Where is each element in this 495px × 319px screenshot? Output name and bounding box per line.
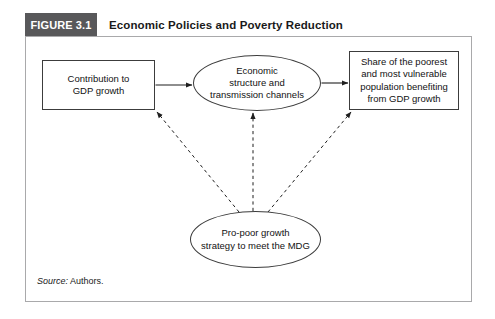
node-pro-poor-growth-strategy: Pro-poor growth strategy to meet the MDG — [190, 211, 321, 268]
node-share-of-poorest-population: Share of the poorest and most vulnerable… — [349, 51, 459, 110]
node-share-line-1: Share of the poorest — [361, 56, 447, 67]
figure-title: Economic Policies and Poverty Reduction — [109, 13, 343, 36]
node-share-line-3: population benefiting — [360, 81, 448, 92]
node-share-line-2: and most vulnerable — [361, 68, 447, 79]
node-structure-line-2: structure and — [229, 77, 284, 88]
node-share-line-4: from GDP growth — [367, 93, 440, 104]
node-structure-line-3: transmission channels — [210, 89, 304, 100]
node-contribution-text: Contribution to GDP growth — [43, 73, 154, 97]
node-contribution-to-gdp-growth: Contribution to GDP growth — [42, 60, 155, 110]
node-propoor-text: Pro-poor growth strategy to meet the MDG — [191, 227, 320, 251]
node-structure-line-1: Economic — [236, 65, 278, 76]
node-contribution-line-1: Contribution to — [68, 73, 130, 84]
figure-container: FIGURE 3.1 Economic Policies and Poverty… — [0, 0, 495, 319]
source-label: Source: — [37, 276, 68, 286]
source-note: Source: Authors. — [37, 276, 104, 286]
source-value: Authors. — [68, 276, 104, 286]
node-share-text: Share of the poorest and most vulnerable… — [355, 56, 453, 105]
node-propoor-line-2: strategy to meet the MDG — [201, 240, 310, 251]
node-economic-structure: Economic structure and transmission chan… — [193, 55, 321, 111]
figure-header: FIGURE 3.1 Economic Policies and Poverty… — [25, 13, 472, 36]
node-propoor-line-1: Pro-poor growth — [221, 227, 289, 238]
node-structure-text: Economic structure and transmission chan… — [194, 65, 320, 101]
node-contribution-line-2: GDP growth — [73, 85, 125, 96]
figure-number-badge: FIGURE 3.1 — [25, 13, 97, 36]
